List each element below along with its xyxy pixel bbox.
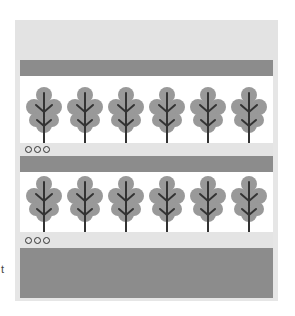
oak-leaf-icon[interactable] xyxy=(25,85,63,143)
more-dot-icon xyxy=(25,146,32,153)
more-dot-icon xyxy=(25,237,32,244)
row-1-leaf-strip xyxy=(20,76,273,143)
row-1-more-menu[interactable] xyxy=(20,143,273,156)
oak-leaf-icon[interactable] xyxy=(107,174,145,232)
oak-leaf-icon[interactable] xyxy=(189,85,227,143)
header-band xyxy=(15,20,278,60)
row-1-title-bar xyxy=(20,60,273,76)
more-dot-icon xyxy=(34,237,41,244)
oak-leaf-icon[interactable] xyxy=(107,85,145,143)
row-2-leaf-strip xyxy=(20,172,273,232)
side-text-fragment: t xyxy=(1,263,4,275)
leaf-gallery-panel xyxy=(15,20,278,301)
oak-leaf-icon[interactable] xyxy=(230,85,268,143)
more-dot-icon xyxy=(43,146,50,153)
more-dot-icon xyxy=(34,146,41,153)
oak-leaf-icon[interactable] xyxy=(148,85,186,143)
oak-leaf-icon[interactable] xyxy=(230,174,268,232)
row-2-title-bar xyxy=(20,156,273,172)
oak-leaf-icon[interactable] xyxy=(66,85,104,143)
oak-leaf-icon[interactable] xyxy=(189,174,227,232)
oak-leaf-icon[interactable] xyxy=(25,174,63,232)
oak-leaf-icon[interactable] xyxy=(66,174,104,232)
more-dot-icon xyxy=(43,237,50,244)
footer-block xyxy=(20,248,273,298)
row-2-more-menu[interactable] xyxy=(20,232,273,248)
oak-leaf-icon[interactable] xyxy=(148,174,186,232)
